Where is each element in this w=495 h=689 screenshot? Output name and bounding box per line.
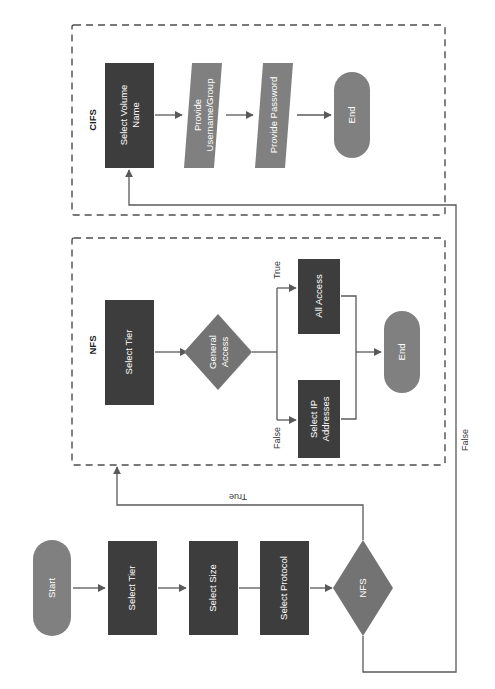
node-nfs-end-label: End xyxy=(396,344,407,361)
node-select-tier-main-label-group: Select Tier xyxy=(126,566,137,611)
node-select-tier-main-label: Select Tier xyxy=(126,566,137,611)
node-decision-general-access-label-group: General Access xyxy=(207,335,230,369)
canvas-background xyxy=(0,0,495,689)
node-select-volume-name-label-l1: Select Volume xyxy=(118,85,129,146)
node-select-size-label-group: Select Size xyxy=(207,564,218,612)
node-provide-password-label: Provide Password xyxy=(268,77,279,154)
node-nfs-end-label-group: End xyxy=(396,344,407,361)
node-decision-general-access-label-l2: Access xyxy=(219,336,230,367)
edge-label-nfs-false-group: False xyxy=(460,429,470,451)
node-select-ip-addresses-label-l2: Addresses xyxy=(320,396,331,441)
node-decision-general-access-label-l1: General xyxy=(207,335,218,369)
edge-label-general-false-group: False xyxy=(272,427,282,449)
edge-label-general-false: False xyxy=(272,427,282,449)
group-label-cifs-text: CIFS xyxy=(87,109,98,131)
node-all-access-label-group: All Access xyxy=(313,274,324,318)
node-provide-username-label-l1: Provide xyxy=(192,99,203,131)
node-start-label: Start xyxy=(46,578,57,598)
node-provide-username-label-l2: Username/Group xyxy=(204,79,215,152)
node-all-access-label: All Access xyxy=(313,274,324,318)
group-label-cifs: CIFS xyxy=(87,109,98,131)
edge-label-general-true-group: True xyxy=(272,261,282,279)
node-decision-nfs-label: NFS xyxy=(357,579,368,598)
group-label-nfs: NFS xyxy=(87,336,98,355)
node-select-ip-addresses-label-group: Select IP Addresses xyxy=(308,396,331,441)
group-label-nfs-text: NFS xyxy=(87,336,98,355)
node-select-protocol-label: Select Protocol xyxy=(278,556,289,620)
edge-label-nfs-true-group: True xyxy=(229,492,247,502)
flowchart-svg: CIFS NFS Start Select Tier Select Size S… xyxy=(0,0,495,689)
node-start-label-group: Start xyxy=(46,578,57,598)
edge-label-nfs-false: False xyxy=(460,429,470,451)
node-provide-password-label-group: Provide Password xyxy=(268,77,279,154)
node-nfs-select-tier-label: Select Tier xyxy=(123,330,134,375)
node-select-ip-addresses-label-l1: Select IP xyxy=(308,400,319,438)
node-select-volume-name-label-l2: Name xyxy=(130,102,141,127)
node-decision-nfs-label-group: NFS xyxy=(357,579,368,598)
node-nfs-select-tier-label-group: Select Tier xyxy=(123,330,134,375)
flowchart-canvas: CIFS NFS Start Select Tier Select Size S… xyxy=(0,0,495,689)
edge-label-nfs-true: True xyxy=(229,492,247,502)
edge-label-general-true: True xyxy=(272,261,282,279)
node-select-size-label: Select Size xyxy=(207,564,218,612)
node-cifs-end-label-group: End xyxy=(346,107,357,124)
node-select-protocol-label-group: Select Protocol xyxy=(278,556,289,620)
node-cifs-end-label: End xyxy=(346,107,357,124)
